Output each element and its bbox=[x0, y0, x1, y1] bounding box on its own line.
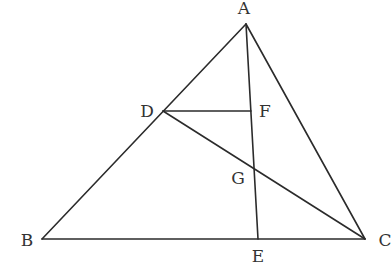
label-C: C bbox=[378, 230, 391, 250]
segment-AC bbox=[246, 24, 365, 239]
label-F: F bbox=[259, 101, 271, 121]
label-A: A bbox=[237, 0, 251, 18]
label-D: D bbox=[140, 101, 154, 121]
label-B: B bbox=[21, 230, 34, 250]
label-G: G bbox=[231, 168, 245, 188]
point-labels: A B C D E F G bbox=[21, 0, 391, 266]
segment-AB bbox=[42, 24, 246, 239]
geometry-diagram: A B C D E F G bbox=[0, 0, 391, 273]
segment-AE bbox=[246, 24, 258, 239]
segments bbox=[42, 24, 365, 239]
label-E: E bbox=[252, 246, 264, 266]
segment-DC bbox=[163, 111, 365, 239]
